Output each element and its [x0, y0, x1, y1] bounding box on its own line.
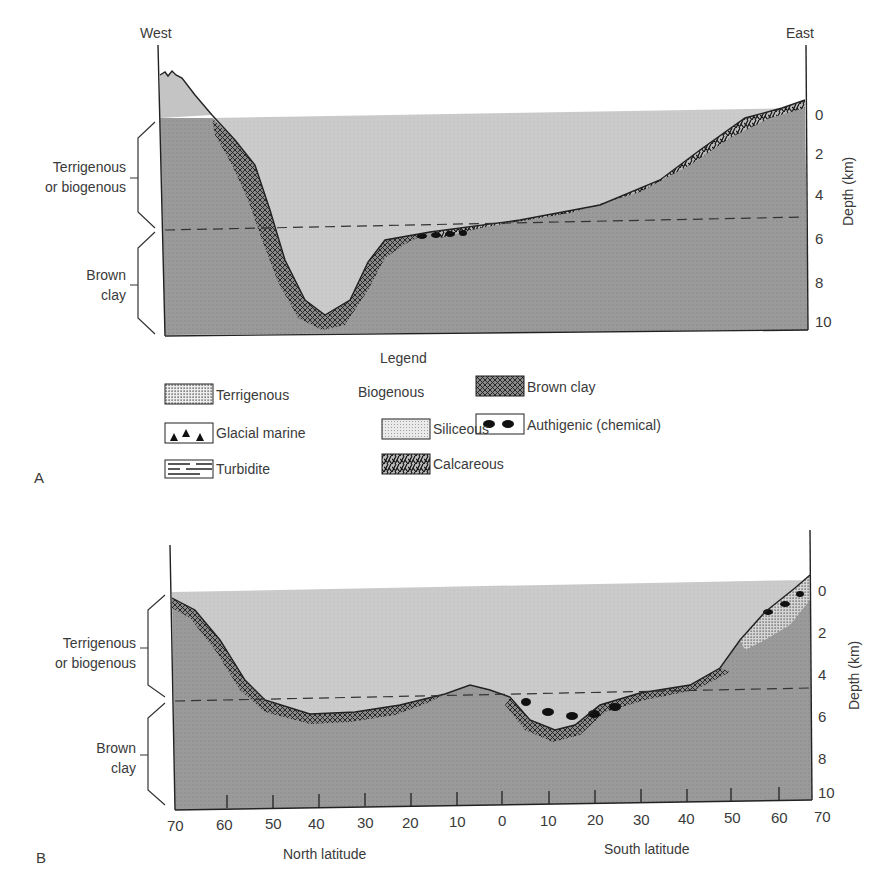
lat-tick-n10: 10	[449, 814, 466, 829]
legend-label-brown-clay: Brown clay	[527, 380, 595, 394]
lat-tick-s60: 60	[771, 810, 788, 825]
legend-swatch-brown-clay	[476, 376, 524, 396]
depth-tick-b-10: 10	[818, 785, 835, 800]
panel-a	[130, 45, 808, 336]
legend-title: Legend	[380, 351, 427, 365]
depth-tick-a-8: 8	[815, 275, 823, 290]
depth-tick-a-10: 10	[815, 314, 832, 329]
depth-tick-b-8: 8	[818, 751, 826, 766]
bracket-brown-clay-b	[140, 703, 165, 805]
lat-tick-0: 0	[498, 813, 506, 828]
depth-tick-a-0: 0	[815, 107, 823, 122]
legend-swatch-calcareous	[382, 454, 430, 474]
legend-swatch-terrigenous	[165, 384, 213, 404]
lat-tick-s10: 10	[540, 813, 557, 828]
north-latitude-label: North latitude	[283, 847, 366, 861]
bracket-label-brown-clay-b: Brown clay	[30, 741, 136, 775]
bracket-label-terrigenous-a: Terrigenous or biogenous	[20, 160, 126, 194]
lat-tick-n50: 50	[265, 816, 282, 831]
panel-b-label: B	[36, 850, 46, 865]
lat-tick-s40: 40	[678, 811, 695, 826]
legend-label-calcareous: Calcareous	[433, 457, 504, 471]
legend-label-turbidite: Turbidite	[216, 462, 270, 476]
lat-tick-n70: 70	[167, 818, 184, 833]
panel-a-label: A	[34, 470, 44, 485]
legend-label-glacial-marine: Glacial marine	[216, 426, 305, 440]
lat-tick-n20: 20	[402, 815, 419, 830]
south-latitude-label: South latitude	[604, 842, 690, 856]
bracket-label-brown-clay-a: Brown clay	[20, 268, 126, 302]
west-label: West	[140, 26, 172, 40]
lat-tick-s50: 50	[724, 810, 741, 825]
depth-axis-title-b: Depth (km)	[846, 641, 862, 710]
bracket-terrigenous-a	[130, 122, 155, 228]
legend-swatch-siliceous	[382, 419, 430, 439]
legend-label-authigenic: Authigenic (chemical)	[527, 418, 661, 432]
panel-b	[140, 530, 812, 810]
legend-heading-biogenous: Biogenous	[358, 385, 424, 399]
lat-tick-n40: 40	[308, 816, 325, 831]
depth-tick-b-6: 6	[818, 709, 826, 724]
bracket-brown-clay-a	[130, 232, 155, 334]
bracket-label-terrigenous-b: Terrigenous or biogenous	[30, 636, 136, 670]
legend-label-terrigenous: Terrigenous	[216, 388, 289, 402]
depth-axis-title-a: Depth (km)	[840, 157, 856, 226]
depth-tick-b-0: 0	[818, 583, 826, 598]
lat-tick-s20: 20	[587, 812, 604, 827]
depth-tick-b-4: 4	[818, 667, 826, 682]
lat-tick-n60: 60	[216, 817, 233, 832]
legend-label-siliceous: Siliceous	[433, 422, 489, 436]
lat-tick-s70: 70	[814, 809, 831, 824]
depth-tick-b-2: 2	[818, 625, 826, 640]
bracket-terrigenous-b	[140, 595, 165, 697]
depth-tick-a-2: 2	[815, 146, 823, 161]
depth-tick-a-4: 4	[815, 187, 823, 202]
east-label: East	[786, 26, 814, 40]
depth-tick-a-6: 6	[815, 231, 823, 246]
lat-tick-s30: 30	[633, 812, 650, 827]
lat-tick-n30: 30	[357, 815, 374, 830]
